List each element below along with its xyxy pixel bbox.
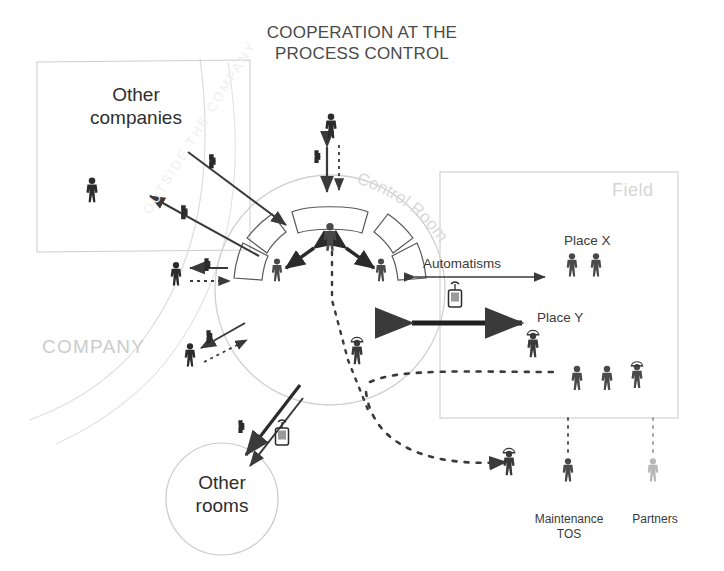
link-other-rooms-down: [246, 385, 300, 455]
partners-label: Partners: [619, 512, 691, 527]
person-place-x-1: [567, 253, 578, 276]
other-companies-line1: Other: [76, 84, 196, 107]
person-place-y: [527, 330, 540, 357]
link-center-operator-downlink: [332, 252, 368, 410]
maintenance-label: Maintenance TOS: [513, 512, 625, 542]
person-maintenance-field: [503, 448, 516, 475]
place-y-label: Place Y: [537, 310, 583, 325]
telephone-handset-icon-2: [181, 204, 188, 220]
console-right: [374, 214, 413, 253]
telephone-handset-icon-5: [314, 149, 320, 163]
other-companies-label: Other companies: [76, 84, 196, 130]
person-outside-company: [86, 178, 97, 203]
link-dashed-to-maintenance-area: [366, 392, 506, 463]
link-dashed-to-field-group: [370, 371, 556, 382]
other-rooms-line2: rooms: [166, 495, 278, 518]
maintenance-line2: TOS: [513, 527, 625, 542]
mobile-radio-icon-2: [276, 420, 289, 445]
person-operator-left: [272, 259, 282, 282]
field-box: [440, 172, 678, 418]
link-control-to-outside-person: [150, 196, 259, 256]
console-left-outer: [234, 243, 268, 280]
telephone-handset-icon-3: [204, 257, 210, 271]
person-operator-center: [324, 223, 337, 251]
person-place-x-2: [591, 253, 602, 276]
field-zone-label: Field: [612, 180, 654, 201]
person-operator-right: [376, 259, 386, 282]
diagram-canvas: Control Room OUTSIDE THE COMPANY COOPERA…: [0, 0, 724, 571]
person-control-room-helmet-worker: [351, 337, 364, 364]
person-field-group-1: [572, 366, 583, 390]
person-top-visitor: [325, 114, 336, 139]
page-title: COOPERATION AT THE PROCESS CONTROL: [262, 22, 462, 65]
person-field-group-3: [631, 362, 644, 388]
person-company-phone-user-2: [185, 343, 196, 366]
link-operator-center-right: [346, 248, 374, 268]
other-companies-line2: companies: [76, 107, 196, 130]
page-title-line2: PROCESS CONTROL: [262, 43, 462, 64]
person-maintenance-tos: [563, 458, 574, 481]
automatisms-label: Automatisms: [423, 256, 501, 271]
telephone-handset-icon-6: [238, 419, 244, 433]
control-room-label-curved: Control Room: [355, 169, 452, 245]
page-title-line1: COOPERATION AT THE: [262, 22, 462, 43]
maintenance-line1: Maintenance: [513, 512, 625, 527]
company-zone-label: COMPANY: [42, 336, 145, 358]
place-x-label: Place X: [564, 233, 611, 248]
telephone-handset-icon-1: [209, 153, 216, 169]
link-operator-center-left: [286, 248, 314, 268]
mobile-radio-icon-1: [449, 282, 462, 307]
link-other-rooms-up: [250, 398, 303, 466]
person-field-group-2: [602, 366, 613, 390]
other-rooms-line1: Other: [166, 472, 278, 495]
link-other-companies-to-control: [188, 152, 286, 225]
other-rooms-label: Other rooms: [166, 472, 278, 518]
person-partners: [648, 458, 659, 481]
console-right-outer: [392, 243, 426, 280]
